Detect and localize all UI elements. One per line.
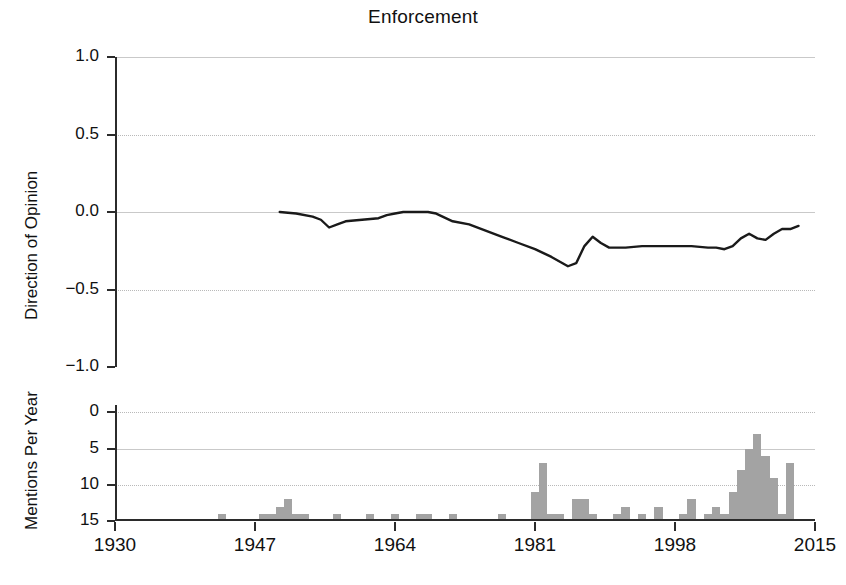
figure-enforcement: Enforcement Direction of Opinion 1.00.50…: [0, 0, 846, 585]
x-tick-label: 1930: [65, 534, 165, 556]
bottom-y-axis-spine: [115, 405, 117, 521]
top-y-tick-mark: [107, 289, 115, 291]
bottom-y-tick-mark: [107, 484, 115, 486]
x-tick-mark: [254, 522, 256, 531]
bottom-gridline: [115, 449, 815, 450]
bar: [753, 434, 761, 521]
bar: [531, 492, 539, 521]
x-tick-mark: [674, 522, 676, 531]
bottom-gridline: [115, 485, 815, 487]
x-tick-mark: [534, 522, 536, 531]
mentions-per-year-panel: [115, 405, 815, 521]
bar: [580, 499, 588, 521]
x-tick-label: 1981: [485, 534, 585, 556]
bar: [284, 499, 292, 521]
top-y-tick-label: −0.5: [17, 279, 99, 299]
opinion-line-path: [280, 212, 799, 266]
bottom-y-tick-label: 5: [17, 438, 99, 458]
top-y-tick-label: 0.0: [17, 201, 99, 221]
bar: [770, 478, 778, 522]
x-tick-label: 2015: [765, 534, 846, 556]
x-tick-mark: [814, 522, 816, 531]
bar: [539, 463, 547, 521]
top-y-tick-label: −1.0: [17, 356, 99, 376]
bar: [729, 492, 737, 521]
bottom-y-tick-label: 0: [17, 401, 99, 421]
bottom-y-tick-label: 10: [17, 474, 99, 494]
direction-of-opinion-panel: [115, 57, 815, 367]
bar: [786, 463, 794, 521]
bar: [745, 449, 753, 522]
bar: [572, 499, 580, 521]
bar: [737, 470, 745, 521]
bottom-y-tick-mark: [107, 448, 115, 450]
top-y-tick-mark: [107, 366, 115, 368]
x-tick-label: 1998: [625, 534, 725, 556]
x-tick-label: 1947: [205, 534, 305, 556]
bar: [687, 499, 695, 521]
x-tick-mark: [114, 522, 116, 531]
top-y-tick-mark: [107, 134, 115, 136]
top-y-axis-spine: [115, 57, 117, 367]
bottom-plot-area: [115, 405, 815, 521]
top-y-tick-label: 1.0: [17, 46, 99, 66]
page-title: Enforcement: [0, 6, 846, 28]
bottom-y-tick-label: 15: [17, 510, 99, 530]
top-y-tick-mark: [107, 211, 115, 213]
bottom-gridline: [115, 412, 815, 414]
top-plot-area: [115, 57, 815, 367]
bottom-y-tick-mark: [107, 411, 115, 413]
x-axis-spine: [115, 519, 815, 521]
top-y-tick-label: 0.5: [17, 124, 99, 144]
x-tick-mark: [394, 522, 396, 531]
bar: [761, 456, 769, 521]
top-y-tick-mark: [107, 56, 115, 58]
opinion-line-series: [115, 57, 815, 367]
x-tick-label: 1964: [345, 534, 445, 556]
